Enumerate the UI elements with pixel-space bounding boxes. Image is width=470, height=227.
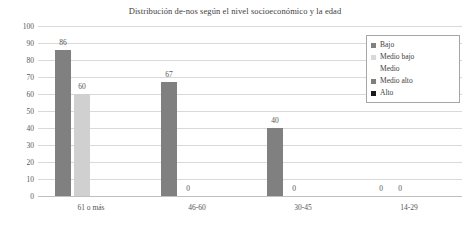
- bar-value-label: 0: [284, 185, 304, 193]
- legend-item-medio: Medio: [371, 63, 455, 75]
- y-tick-label: 70: [6, 74, 34, 82]
- y-tick-label: 20: [6, 159, 34, 167]
- chart-title: Distribución de-nos según el nivel socio…: [0, 6, 470, 16]
- bar-value-label: 0: [178, 185, 198, 193]
- y-tick-label: 0: [6, 193, 34, 201]
- bar-bajo: [161, 82, 177, 196]
- y-tick-label: 90: [6, 40, 34, 48]
- legend-label: Alto: [380, 89, 393, 97]
- bar-value-label: 67: [159, 71, 179, 79]
- legend-item-bajo: Bajo: [371, 39, 455, 51]
- legend-swatch-icon: [371, 55, 376, 60]
- x-tick-label: 61 o más: [38, 203, 144, 212]
- y-tick-label: 30: [6, 142, 34, 150]
- legend-label: Medio alto: [380, 77, 413, 85]
- legend-label: Medio: [380, 65, 400, 73]
- y-tick-label: 10: [6, 176, 34, 184]
- bar-chart: Distribución de-nos según el nivel socio…: [0, 0, 470, 227]
- bar-group: 40 0: [250, 26, 356, 196]
- x-tick-label: 46-60: [144, 203, 250, 212]
- y-axis: 100 90 80 70 60 50 40 30 20 10 0: [0, 0, 34, 227]
- bar-value-label: 0: [390, 185, 410, 193]
- bar-group: 86 60: [38, 26, 144, 196]
- bar-value-label: 86: [53, 39, 73, 47]
- y-tick-label: 100: [6, 23, 34, 31]
- bar-value-label: 0: [371, 185, 391, 193]
- legend-swatch-icon: [371, 43, 376, 48]
- legend-item-alto: Alto: [371, 87, 455, 99]
- y-tick-label: 60: [6, 91, 34, 99]
- legend-item-medio-alto: Medio alto: [371, 75, 455, 87]
- chart-legend: Bajo Medio bajo Medio Medio alto Alto: [366, 35, 460, 103]
- legend-label: Bajo: [380, 41, 394, 49]
- y-tick-label: 40: [6, 125, 34, 133]
- y-tick-label: 50: [6, 108, 34, 116]
- x-tick-label: 14-29: [356, 203, 462, 212]
- bar-bajo: [55, 50, 71, 196]
- x-tick-label: 30-45: [250, 203, 356, 212]
- legend-label: Medio bajo: [380, 53, 414, 61]
- y-tick-label: 80: [6, 57, 34, 65]
- legend-swatch-icon: [371, 79, 376, 84]
- bar-value-label: 60: [72, 83, 92, 91]
- legend-swatch-icon: [371, 91, 376, 96]
- legend-item-medio-bajo: Medio bajo: [371, 51, 455, 63]
- bar-medio-bajo: [74, 94, 90, 196]
- bar-bajo: [267, 128, 283, 196]
- bar-group: 67 0: [144, 26, 250, 196]
- x-axis-line: [38, 196, 462, 197]
- bar-value-label: 40: [265, 117, 285, 125]
- legend-swatch-icon: [371, 67, 376, 72]
